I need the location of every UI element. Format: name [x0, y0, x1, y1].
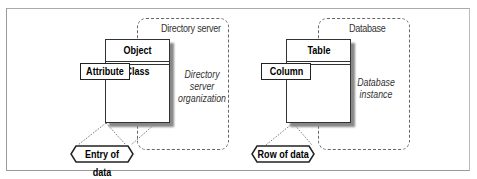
database-label: Database	[349, 22, 386, 34]
table-box: Table	[286, 39, 351, 123]
database-instance-label: Database instance	[352, 76, 400, 100]
object-class-title: Object Class	[106, 40, 169, 62]
attribute-box: Attribute	[80, 63, 130, 80]
object-class-box: Object Class	[105, 39, 170, 123]
table-title: Table	[287, 40, 350, 62]
entry-of-data-label: Entry of data	[70, 145, 134, 163]
column-box: Column	[261, 63, 311, 80]
row-of-data-label: Row of data	[251, 145, 315, 163]
